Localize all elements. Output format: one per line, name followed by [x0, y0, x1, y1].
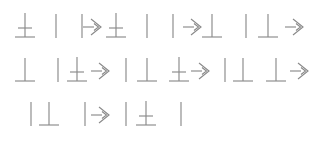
- perpendicular-glyph: [263, 50, 289, 90]
- glyph-canvas: [0, 0, 312, 143]
- double-crossbar-glyph: [12, 6, 38, 46]
- perpendicular-glyph: [255, 6, 281, 46]
- vertical-bar-glyph: [43, 6, 69, 46]
- glyph-row-2: [0, 50, 312, 94]
- double-crossbar-glyph: [133, 94, 159, 134]
- glyph-row-1: [0, 6, 312, 50]
- right-block-arrow-glyph: [88, 50, 114, 90]
- double-crossbar-glyph: [103, 6, 129, 46]
- perpendicular-glyph: [12, 50, 38, 90]
- right-block-arrow-glyph: [88, 94, 114, 134]
- perpendicular-glyph: [134, 50, 160, 90]
- perpendicular-glyph: [36, 94, 62, 134]
- right-block-arrow-glyph: [282, 6, 308, 46]
- double-crossbar-glyph: [64, 50, 90, 90]
- vertical-bar-glyph: [168, 94, 194, 134]
- glyph-row-3: [0, 94, 312, 138]
- right-block-arrow-glyph: [188, 50, 214, 90]
- perpendicular-glyph: [230, 50, 256, 90]
- perpendicular-glyph: [199, 6, 225, 46]
- vertical-bar-glyph: [134, 6, 160, 46]
- right-block-arrow-glyph: [287, 50, 312, 90]
